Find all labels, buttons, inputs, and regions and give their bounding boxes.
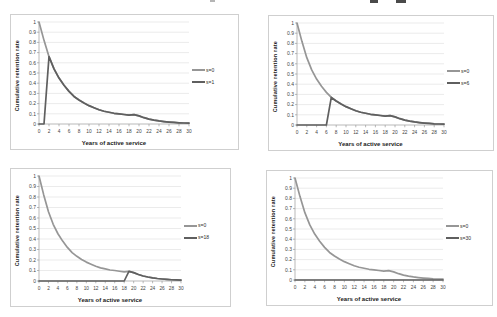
x-tick-label: 4 <box>57 286 60 291</box>
y-tick-label: 0.7 <box>29 49 36 55</box>
x-tick-label: 10 <box>342 285 348 290</box>
x-tick-label: 16 <box>371 285 377 290</box>
x-tick-label: 18 <box>122 286 128 291</box>
legend-item: s=0 <box>184 223 230 228</box>
cropped-text-fragment <box>210 0 215 2</box>
cropped-text-fragment <box>370 0 378 3</box>
y-tick-label: 0.9 <box>29 29 36 35</box>
y-tick-label: 0.2 <box>287 101 294 107</box>
y-tick-label: 0.6 <box>29 60 36 66</box>
plot-column: 00.10.20.30.40.50.60.70.80.9102468101214… <box>22 169 184 306</box>
x-tick-label: 12 <box>96 129 102 134</box>
x-tick-label: 14 <box>363 130 369 135</box>
x-tick-label: 6 <box>66 286 69 291</box>
y-axis-title-text: Cumulative retention rate <box>270 196 276 267</box>
x-tick-label: 10 <box>86 129 92 134</box>
legend-label: s=6 <box>461 81 469 86</box>
y-axis-title: Cumulative retention rate <box>11 15 22 149</box>
chart-panel-s6: Cumulative retention rate 00.10.20.30.40… <box>268 15 494 151</box>
legend-label: s=30 <box>460 236 471 241</box>
series-line-sample-icon <box>184 225 197 227</box>
legend-item: s=18 <box>184 235 230 240</box>
y-tick-label: 0.2 <box>29 257 36 263</box>
y-tick-label: 0 <box>33 121 36 127</box>
y-tick-label: 0.1 <box>29 111 36 117</box>
y-tick-label: 0.5 <box>285 226 292 232</box>
x-tick-label: 8 <box>78 129 81 134</box>
x-tick-label: 26 <box>166 129 172 134</box>
x-tick-label: 2 <box>48 129 51 134</box>
x-tick-label: 16 <box>116 129 122 134</box>
x-tick-label: 10 <box>343 130 349 135</box>
x-tick-label: 12 <box>353 130 359 135</box>
x-tick-label: 8 <box>333 285 336 290</box>
y-axis-title: Cumulative retention rate <box>269 16 280 150</box>
series-line-s=0 <box>297 23 444 124</box>
plot-column: 00.10.20.30.40.50.60.70.80.9102468101214… <box>280 16 447 150</box>
series-line-sample-icon <box>192 69 205 71</box>
y-tick-label: 0.6 <box>29 215 36 221</box>
y-tick-label: 0.3 <box>29 246 36 252</box>
x-tick-label: 20 <box>131 286 137 291</box>
series-line-s=0 <box>295 178 443 279</box>
x-tick-label: 28 <box>432 130 438 135</box>
plot-area: 00.10.20.30.40.50.60.70.80.9102468101214… <box>22 15 192 138</box>
x-tick-label: 4 <box>313 285 316 290</box>
x-tick-label: 0 <box>38 129 41 134</box>
y-axis-title: Cumulative retention rate <box>11 169 22 306</box>
legend-item: s=0 <box>446 224 492 229</box>
legend-item: s=1 <box>192 80 238 85</box>
x-tick-label: 26 <box>422 130 428 135</box>
legend-item: s=0 <box>447 69 493 74</box>
x-tick-label: 22 <box>140 286 146 291</box>
y-tick-label: 0.1 <box>287 112 294 118</box>
y-axis-title-text: Cumulative retention rate <box>14 40 20 111</box>
y-tick-label: 0.3 <box>29 90 36 96</box>
y-axis-title: Cumulative retention rate <box>267 171 278 305</box>
y-tick-label: 0.8 <box>287 40 294 46</box>
x-tick-label: 12 <box>352 285 358 290</box>
y-tick-label: 0.1 <box>285 267 292 273</box>
y-tick-label: 0.7 <box>287 50 294 56</box>
x-tick-label: 8 <box>76 286 79 291</box>
y-tick-label: 0.4 <box>29 236 36 242</box>
series-line-sample-icon <box>446 237 459 239</box>
legend: s=0 s=6 <box>447 16 493 150</box>
x-tick-label: 16 <box>112 286 118 291</box>
y-tick-label: 0.8 <box>29 39 36 45</box>
y-tick-label: 0 <box>289 277 292 283</box>
x-tick-label: 28 <box>176 129 182 134</box>
y-tick-label: 1 <box>33 173 36 179</box>
x-tick-label: 20 <box>391 285 397 290</box>
legend-label: s=0 <box>198 223 206 228</box>
y-tick-label: 0.4 <box>29 80 36 86</box>
x-tick-label: 0 <box>294 285 297 290</box>
x-tick-label: 26 <box>421 285 427 290</box>
plot-column: 00.10.20.30.40.50.60.70.80.9102468101214… <box>22 15 192 149</box>
x-tick-label: 4 <box>315 130 318 135</box>
y-tick-label: 0.2 <box>285 256 292 262</box>
x-tick-label: 20 <box>392 130 398 135</box>
chart-panel-s18: Cumulative retention rate 00.10.20.30.40… <box>10 168 231 307</box>
y-tick-label: 0.7 <box>29 204 36 210</box>
x-tick-label: 18 <box>381 285 387 290</box>
x-tick-label: 20 <box>136 129 142 134</box>
legend: s=0 s=30 <box>446 171 492 305</box>
legend: s=0 s=18 <box>184 169 230 306</box>
x-tick-label: 6 <box>323 285 326 290</box>
legend-label: s=0 <box>460 224 468 229</box>
x-tick-label: 6 <box>68 129 71 134</box>
y-axis-title-text: Cumulative retention rate <box>272 41 278 112</box>
legend-item: s=6 <box>447 81 493 86</box>
y-tick-label: 0.1 <box>29 267 36 273</box>
x-tick-label: 4 <box>58 129 61 134</box>
x-tick-label: 10 <box>84 286 90 291</box>
legend-label: s=0 <box>206 68 214 73</box>
y-tick-label: 0 <box>291 122 294 128</box>
y-tick-label: 0.6 <box>285 216 292 222</box>
y-tick-label: 0.5 <box>29 225 36 231</box>
y-tick-label: 0.5 <box>29 70 36 76</box>
y-tick-label: 0.4 <box>287 81 294 87</box>
series-line-s=0 <box>39 22 189 123</box>
y-tick-label: 0.8 <box>285 195 292 201</box>
